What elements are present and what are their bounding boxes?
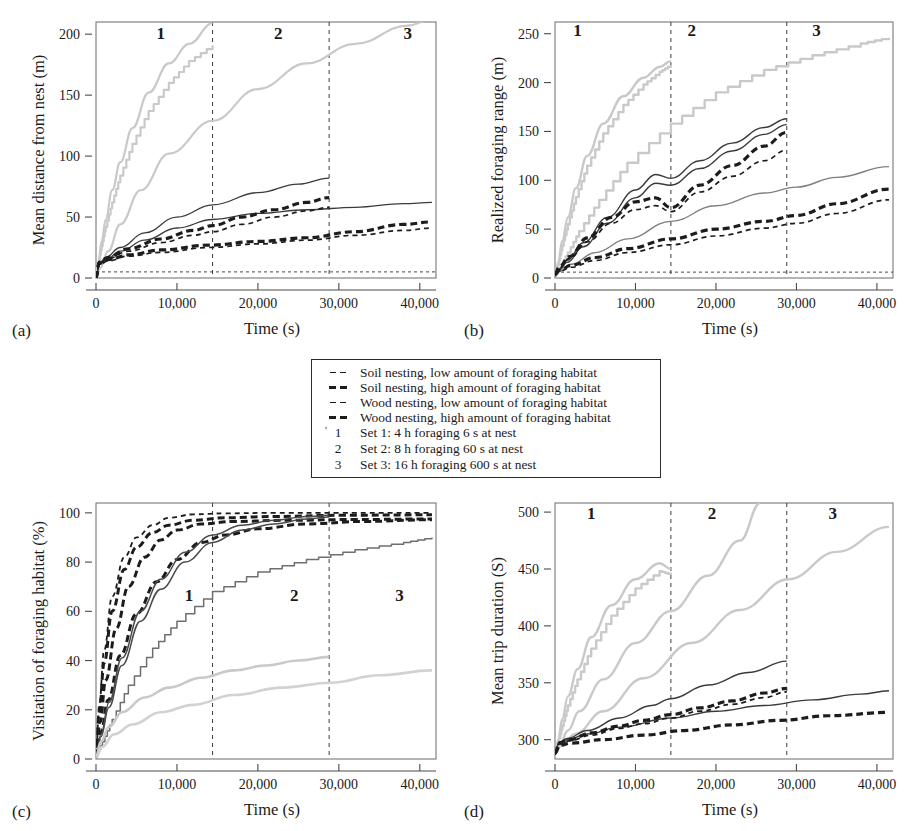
- y-tick-label: 350: [518, 676, 539, 691]
- y-axis-title: Realized foraging range (m): [488, 57, 507, 243]
- y-tick-label: 150: [518, 124, 539, 139]
- y-tick-label: 100: [59, 506, 80, 521]
- x-tick-label: 10,000: [616, 777, 655, 792]
- x-tick-label: 40,000: [858, 777, 897, 792]
- y-tick-label: 200: [59, 27, 80, 42]
- legend-set-number: 3: [318, 457, 358, 473]
- legend-sets-list: 1Set 1: 4 h foraging 6 s at nest2Set 2: …: [318, 425, 654, 473]
- panel-label-a: (a): [12, 321, 31, 340]
- series-line: [555, 691, 889, 754]
- legend-swatch-wood-high-icon: [318, 416, 358, 419]
- x-tick-label: 30,000: [320, 296, 359, 311]
- series-line: [96, 515, 432, 757]
- set-number-label-2: 2: [274, 24, 283, 43]
- plot-frame: [96, 503, 436, 759]
- y-tick-label: 60: [66, 604, 80, 619]
- legend-item-wood-low: Wood nesting, low amount of foraging hab…: [318, 395, 654, 410]
- plot-area: 123: [555, 503, 889, 759]
- series-line: [96, 228, 432, 278]
- x-tick-label: 40,000: [401, 777, 440, 792]
- plot-frame: [555, 22, 893, 278]
- legend-set-1: 1Set 1: 4 h foraging 6 s at nest: [318, 425, 654, 441]
- x-tick-label: 20,000: [239, 777, 278, 792]
- set-number-label-1: 1: [157, 24, 166, 43]
- series-line: [555, 38, 889, 276]
- y-tick-label: 50: [525, 222, 539, 237]
- set-number-label-2: 2: [708, 504, 717, 523]
- figure-legend: ' Soil nesting, low amount of foraging h…: [311, 359, 661, 478]
- set-number-label-3: 3: [403, 24, 412, 43]
- legend-item-label: Wood nesting, low amount of foraging hab…: [358, 395, 607, 410]
- legend-swatch-soil-low-icon: [318, 372, 358, 374]
- figure-root: 123010,00020,00030,00040,000050100150200…: [0, 0, 905, 831]
- legend-item-soil-low: Soil nesting, low amount of foraging hab…: [318, 365, 654, 380]
- x-tick-label: 40,000: [858, 296, 897, 311]
- plot-area: 123: [96, 503, 432, 759]
- legend-swatch-wood-low-icon: [318, 402, 358, 404]
- y-axis-title: Mean trip duration (S): [488, 557, 507, 705]
- y-tick-label: 150: [59, 88, 80, 103]
- legend-tick-dot: ': [325, 424, 327, 436]
- x-tick-label: 30,000: [777, 296, 816, 311]
- y-tick-label: 200: [518, 76, 539, 91]
- y-tick-label: 0: [73, 271, 80, 286]
- x-tick-label: 40,000: [401, 296, 440, 311]
- x-tick-label: 0: [93, 777, 100, 792]
- y-tick-label: 250: [518, 27, 539, 42]
- x-tick-label: 20,000: [239, 296, 278, 311]
- x-tick-label: 0: [552, 296, 559, 311]
- chart-panel-a: 123010,00020,00030,00040,000050100150200…: [0, 0, 452, 350]
- chart-panel-d: 123010,00020,00030,00040,000300350400450…: [452, 481, 905, 831]
- set-number-label-3: 3: [812, 21, 821, 40]
- x-tick-label: 10,000: [158, 777, 197, 792]
- y-tick-label: 20: [66, 703, 80, 718]
- series-line: [96, 670, 432, 756]
- y-tick-label: 80: [66, 555, 80, 570]
- x-tick-label: 10,000: [158, 296, 197, 311]
- series-line: [555, 712, 889, 753]
- x-tick-label: 30,000: [777, 777, 816, 792]
- legend-swatch-soil-high-icon: [318, 386, 358, 389]
- plot-area: 123: [555, 21, 893, 278]
- chart-panel-c: 123010,00020,00030,00040,000020406080100…: [0, 481, 452, 831]
- y-tick-label: 100: [518, 173, 539, 188]
- set-number-label-2: 2: [688, 21, 697, 40]
- plot-area: 123: [96, 20, 436, 278]
- legend-set-number: 2: [318, 441, 358, 457]
- x-tick-label: 20,000: [697, 296, 736, 311]
- y-tick-label: 100: [59, 149, 80, 164]
- legend-item-wood-high: Wood nesting, high amount of foraging ha…: [318, 410, 654, 425]
- chart-svg-b: 123010,00020,00030,00040,000050100150200…: [452, 0, 905, 350]
- x-tick-label: 0: [93, 296, 100, 311]
- legend-set-label: Set 3: 16 h foraging 600 s at nest: [358, 457, 536, 473]
- series-line: [96, 537, 432, 756]
- x-tick-label: 20,000: [697, 777, 736, 792]
- set-number-label-3: 3: [395, 586, 404, 605]
- x-axis-title: Time (s): [702, 319, 758, 338]
- x-tick-label: 0: [552, 777, 559, 792]
- y-axis-title: Mean distance from nest (m): [29, 55, 48, 246]
- series-line: [96, 222, 432, 278]
- set-number-label-1: 1: [573, 21, 582, 40]
- chart-svg-d: 123010,00020,00030,00040,000300350400450…: [452, 481, 905, 831]
- legend-set-number: 1: [318, 425, 358, 441]
- legend-item-label: Wood nesting, high amount of foraging ha…: [358, 410, 611, 425]
- set-number-label-3: 3: [828, 504, 837, 523]
- x-axis-title: Time (s): [702, 800, 758, 819]
- chart-panel-b: 123010,00020,00030,00040,000050100150200…: [452, 0, 905, 350]
- panel-label-c: (c): [12, 802, 31, 821]
- y-axis-title: Visitation of foraging habitat (%): [29, 521, 48, 741]
- series-line: [96, 519, 432, 757]
- legend-item-label: Soil nesting, high amount of foraging ha…: [358, 380, 601, 395]
- legend-set-2: 2Set 2: 8 h foraging 60 s at nest: [318, 441, 654, 457]
- y-tick-label: 300: [518, 733, 539, 748]
- y-tick-label: 500: [518, 505, 539, 520]
- y-tick-label: 0: [73, 752, 80, 767]
- x-tick-label: 30,000: [320, 777, 359, 792]
- legend-series-list: Soil nesting, low amount of foraging hab…: [318, 365, 654, 425]
- series-line: [555, 189, 889, 274]
- panel-label-d: (d): [464, 802, 484, 821]
- chart-svg-a: 123010,00020,00030,00040,000050100150200…: [0, 0, 452, 350]
- legend-item-label: Soil nesting, low amount of foraging hab…: [358, 365, 597, 380]
- set-number-label-2: 2: [290, 586, 299, 605]
